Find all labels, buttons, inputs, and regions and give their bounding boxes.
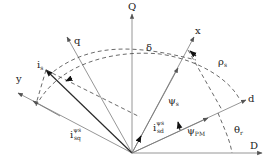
is-projection-x: [46, 70, 140, 117]
label-isd-psi: iψssd: [153, 119, 164, 134]
flux-arc: [36, 53, 240, 106]
label-x: x: [195, 25, 201, 36]
delta-arc: [48, 49, 196, 76]
arc-arrow-is: [66, 78, 72, 81]
label-psi-s: ψs: [168, 95, 179, 107]
is-projection-y: [36, 70, 46, 104]
label-psi-pm: ψPM: [187, 125, 205, 137]
vector-diagram: Q q x y d D δ ρs θr is ψs ψPM iψssd iψss…: [0, 0, 269, 165]
isd-psi-vector: [140, 136, 141, 138]
label-delta: δ: [146, 42, 152, 53]
label-isq-psi: iψssq: [70, 126, 81, 142]
rho-arc-segment: [188, 50, 222, 110]
label-q: q: [74, 35, 81, 46]
arc-arrow-theta: [178, 122, 180, 130]
is-vector: [46, 70, 132, 153]
label-rho-s: ρs: [218, 56, 227, 68]
arc-arrow-rho: [190, 51, 196, 56]
label-Q: Q: [128, 1, 136, 12]
psi-s-vector: [132, 68, 178, 153]
label-theta-r: θr: [234, 124, 243, 136]
theta-arc: [218, 113, 232, 153]
label-D: D: [250, 140, 258, 151]
label-d: d: [248, 93, 255, 104]
label-is: is: [37, 59, 43, 71]
label-y: y: [15, 73, 22, 84]
